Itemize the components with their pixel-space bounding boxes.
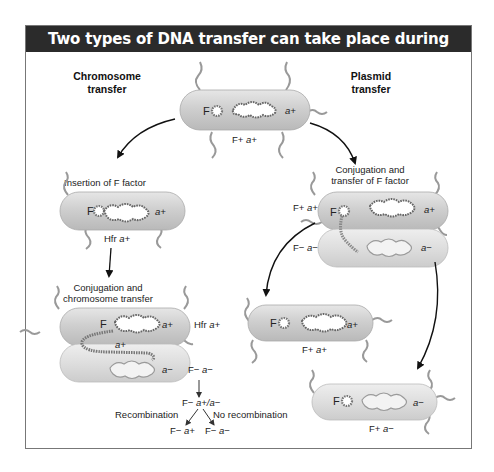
recombination-label: Recombination bbox=[115, 409, 178, 420]
result-recombinant: F− a+ bbox=[170, 425, 195, 436]
svg-text:transfer: transfer bbox=[351, 83, 390, 95]
step-label: Insertion of F factor bbox=[64, 177, 146, 188]
f-factor-label: F bbox=[100, 318, 107, 330]
pilus bbox=[372, 318, 392, 322]
arrow-to-recipient-result bbox=[418, 262, 438, 368]
result-nonrecombinant: F− a− bbox=[205, 425, 230, 436]
f-plasmid-icon bbox=[342, 396, 352, 406]
recipient-genotype-label: F− a− bbox=[188, 364, 213, 375]
chromosome-icon bbox=[233, 102, 276, 118]
cell-pair-chromosome-transfer: Conjugation and chromosome transfer F a+… bbox=[20, 282, 221, 382]
pilus bbox=[251, 340, 256, 363]
step-label: transfer of F factor bbox=[331, 175, 409, 186]
f-plasmid-icon bbox=[339, 206, 349, 216]
no-recombination-label: No recombination bbox=[213, 409, 287, 420]
genotype-label: Hfr a+ bbox=[104, 233, 131, 244]
chromosome-icon bbox=[104, 204, 149, 222]
pilus bbox=[310, 370, 314, 393]
f-factor-label: F bbox=[333, 395, 340, 407]
f-factor-label: F bbox=[330, 206, 337, 218]
recombination-outcomes: F− a+/a− Recombination No recombination … bbox=[115, 380, 287, 436]
donor-genotype-label: Hfr a+ bbox=[194, 319, 221, 330]
gene-label: a− bbox=[421, 242, 432, 253]
recipient-chromosome-icon bbox=[367, 239, 412, 257]
arrow-recombination bbox=[186, 409, 198, 425]
svg-text:Chromosome: Chromosome bbox=[73, 70, 141, 82]
pilus bbox=[184, 286, 188, 309]
gene-label: a+ bbox=[347, 319, 358, 330]
merodiploid-genotype: F− a+/a− bbox=[182, 397, 221, 408]
genotype-label: F+ a+ bbox=[302, 344, 327, 355]
pilus bbox=[55, 286, 59, 309]
cell-result-recipient: F a− F+ a− bbox=[310, 370, 455, 434]
svg-text:transfer: transfer bbox=[87, 83, 126, 95]
recipient-chromosome-icon bbox=[110, 361, 155, 379]
genotype-label: F+ a− bbox=[369, 423, 394, 434]
gene-label: a+ bbox=[162, 319, 173, 330]
chromosome-icon bbox=[302, 314, 347, 332]
pilus bbox=[363, 340, 368, 362]
f-plasmid-icon bbox=[212, 106, 222, 116]
cell-pair-plasmid-transfer: Conjugation and transfer of F factor F+ … bbox=[293, 164, 448, 267]
pilus bbox=[210, 132, 215, 158]
column-header-chromosome: Chromosome transfer bbox=[73, 70, 141, 95]
gene-label: a+ bbox=[285, 105, 296, 116]
cell-result-donor: F a+ F+ a+ bbox=[245, 298, 392, 363]
step-label: chromosome transfer bbox=[63, 293, 153, 304]
gene-label: a+ bbox=[424, 204, 435, 215]
gene-label: a− bbox=[162, 364, 173, 375]
cell-donor-f-plus: F a+ F+ a+ bbox=[180, 62, 327, 158]
genotype-label: F+ a+ bbox=[232, 134, 257, 145]
pilus bbox=[435, 396, 455, 400]
f-plasmid-icon bbox=[279, 318, 289, 328]
pilus bbox=[279, 132, 284, 158]
step-label: Conjugation and bbox=[73, 282, 142, 293]
pilus bbox=[196, 62, 202, 90]
arrow-to-plasmid-conjugation bbox=[310, 123, 355, 163]
conjugation-diagram: Chromosome transfer Plasmid transfer F a… bbox=[0, 0, 494, 472]
pilus bbox=[311, 172, 315, 195]
f-factor-label: F bbox=[270, 317, 277, 329]
svg-text:Plasmid: Plasmid bbox=[351, 70, 391, 82]
cell-hfr: Insertion of F factor F a+ Hfr a+ bbox=[60, 172, 185, 249]
donor-genotype-label: F+ a+ bbox=[293, 202, 318, 213]
chromosome-icon bbox=[362, 393, 407, 411]
transfer-gene-label: a+ bbox=[115, 339, 126, 350]
recipient-genotype-label: F− a− bbox=[293, 242, 318, 253]
gene-label: a+ bbox=[155, 206, 166, 217]
pilus bbox=[20, 330, 40, 334]
gene-label: a− bbox=[413, 397, 424, 408]
pilus bbox=[301, 220, 322, 224]
pilus bbox=[285, 62, 290, 90]
arrow-to-chromosome-conjugation bbox=[109, 248, 111, 276]
column-header-plasmid: Plasmid transfer bbox=[351, 70, 391, 95]
f-factor-label: F bbox=[203, 105, 210, 117]
pilus bbox=[435, 172, 439, 195]
arrow-to-donor-result bbox=[266, 223, 315, 295]
integrated-f-icon bbox=[94, 206, 104, 216]
arrow-to-hfr bbox=[118, 119, 175, 157]
step-label: Conjugation and bbox=[335, 164, 404, 175]
donor-chromosome-icon bbox=[370, 199, 415, 217]
donor-chromosome-icon bbox=[115, 315, 160, 333]
